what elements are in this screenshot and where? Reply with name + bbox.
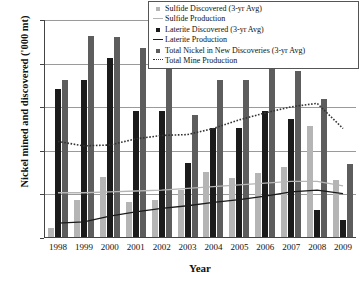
legend-square-icon [153,49,163,53]
legend-square-icon [153,28,163,32]
chart-legend: Sulfide Discovered (3-yr Avg)Sulfide Pro… [148,1,359,69]
x-axis-tick-label: 2002 [149,242,175,252]
x-axis-tick-label: 2004 [201,242,227,252]
y-axis-tick [40,20,44,21]
legend-label: Laterite Discovered (3-yr Avg) [165,25,264,35]
legend-item-marker: Laterite Discovered (3-yr Avg) [153,25,355,35]
x-axis-tick-label: 2006 [252,242,278,252]
legend-item-line: Laterite Production [153,35,355,45]
x-axis-tick-label: 1998 [45,242,71,252]
legend-item-line: Total Mine Production [153,56,355,66]
legend-line-icon [153,39,163,41]
legend-group: Sulfide Discovered (3-yr Avg)Sulfide Pro… [153,4,355,23]
x-axis-tick-label: 2009 [330,242,356,252]
x-axis-tick-label: 2007 [278,242,304,252]
legend-line-icon [153,18,163,20]
line-series [58,103,343,146]
legend-item-line: Sulfide Production [153,14,355,24]
legend-group: Total Nickel in New Discoveries (3-yr Av… [153,46,355,65]
x-axis-tick-label: 2005 [226,242,252,252]
y-axis-tick [40,64,44,65]
legend-item-marker: Total Nickel in New Discoveries (3-yr Av… [153,46,355,56]
y-axis-tick [40,151,44,152]
y-axis-tick [40,238,44,239]
x-axis-tick-label: 2001 [123,242,149,252]
y-axis-tick [40,194,44,195]
legend-group: Laterite Discovered (3-yr Avg)Laterite P… [153,25,355,44]
legend-line-icon [153,59,163,61]
legend-label: Sulfide Discovered (3-yr Avg) [165,4,262,14]
y-axis-tick [40,107,44,108]
y-axis-title: Nickel mined and discovered ('000 mt) [19,2,30,202]
line-series [58,190,343,223]
legend-label: Total Nickel in New Discoveries (3-yr Av… [165,46,305,56]
x-axis-tick-label: 2008 [304,242,330,252]
legend-item-marker: Sulfide Discovered (3-yr Avg) [153,4,355,14]
legend-square-icon [153,7,163,11]
x-axis-tick-label: 2000 [97,242,123,252]
x-axis-tick-label: 2003 [175,242,201,252]
chart-figure: Nickel mined and discovered ('000 mt) 05… [0,0,362,283]
legend-label: Laterite Production [165,35,227,45]
legend-label: Total Mine Production [165,56,237,66]
x-axis-tick-label: 1999 [71,242,97,252]
x-axis-title: Year [44,262,356,274]
legend-label: Sulfide Production [165,14,225,24]
